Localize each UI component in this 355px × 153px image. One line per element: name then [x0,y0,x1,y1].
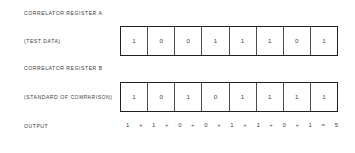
output-term: 1 [309,122,312,128]
output-term: 1 [256,122,259,128]
output-operator: + [295,122,299,128]
output-operator: + [243,122,247,128]
output-term: 0 [178,122,181,128]
register-b-cell: 1 [175,83,202,111]
register-a-cell: 1 [311,27,337,55]
register-b-cell: 1 [311,83,337,111]
register-b-sublabel: (STANDARD OF COMPARISON) [24,95,113,100]
output-operator: + [139,122,143,128]
register-a-cell: 1 [121,27,148,55]
output-label: OUTPUT [24,124,48,129]
register-a-cell: 0 [148,27,175,55]
register-b-heading: CORRELATOR REGISTER B [24,66,103,71]
equals-sign: = [322,122,326,128]
register-a-sublabel: (TEST DATA) [24,39,61,44]
register-a-box: 1 0 0 1 1 1 0 1 [120,26,338,56]
register-b-cell: 1 [230,83,257,111]
output-term: 0 [204,122,207,128]
register-a-cell: 0 [284,27,311,55]
register-a-heading: CORRELATOR REGISTER A [24,11,102,16]
register-a-cell: 0 [175,27,202,55]
output-operator: + [217,122,221,128]
register-a-cell: 1 [230,27,257,55]
register-b-cell: 0 [202,83,229,111]
register-b-cell: 1 [121,83,148,111]
register-b-cell: 1 [257,83,284,111]
output-term: 1 [126,122,129,128]
output-operator: + [165,122,169,128]
output-term: 0 [282,122,285,128]
output-operator: + [191,122,195,128]
register-a-cell: 1 [202,27,229,55]
output-result: 5 [335,122,338,128]
output-equation: 1 + 1 + 0 + 0 + 1 + 1 + 0 + 1 = 5 [126,122,338,128]
correlator-diagram: CORRELATOR REGISTER A (TEST DATA) 1 0 0 … [0,0,355,153]
output-term: 1 [230,122,233,128]
output-term: 1 [152,122,155,128]
register-a-cell: 1 [257,27,284,55]
register-b-box: 1 0 1 0 1 1 1 1 [120,82,338,112]
register-b-cell: 1 [284,83,311,111]
output-operator: + [269,122,273,128]
register-b-cell: 0 [148,83,175,111]
